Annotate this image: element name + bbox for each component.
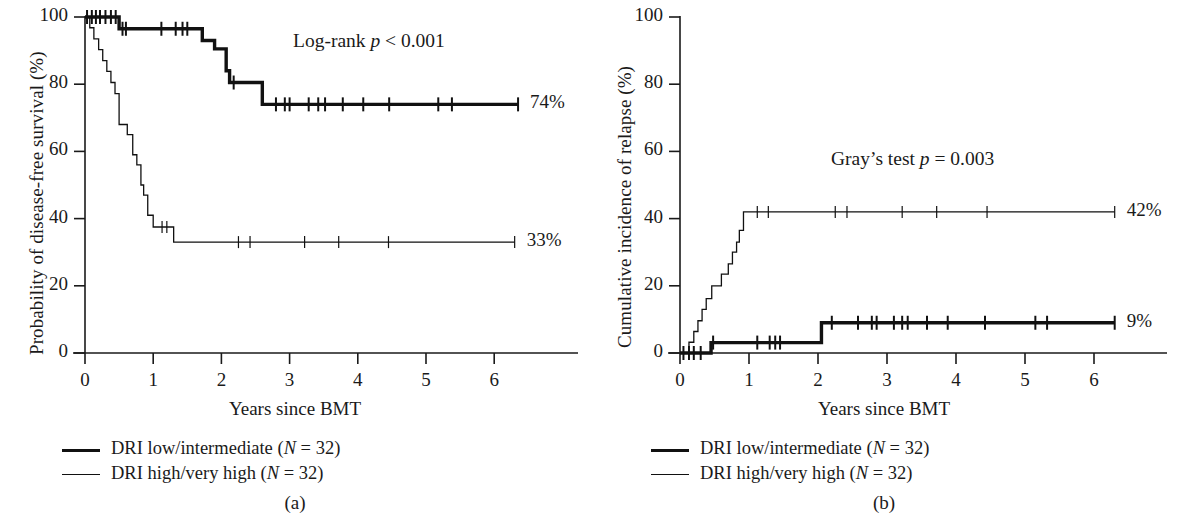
panel-a-x-axis-label: Years since BMT bbox=[0, 398, 590, 420]
b-y-tick-label-60: 60 bbox=[585, 138, 663, 160]
panel-a-plot bbox=[0, 0, 590, 400]
a-y-tick-label-80: 80 bbox=[0, 71, 68, 93]
a-x-ticks bbox=[85, 353, 494, 364]
annot-a-suffix: < 0.001 bbox=[380, 30, 445, 51]
b-legend-line-icon-thin bbox=[651, 467, 689, 481]
b-legend-item-high-very-high: DRI high/very high (N = 32) bbox=[651, 461, 929, 486]
a-y-tick-label-60: 60 bbox=[0, 138, 68, 160]
a-y-tick-label-100: 100 bbox=[0, 4, 68, 26]
b-legend-label-1: DRI high/very high (N = 32) bbox=[700, 463, 912, 484]
panel-b-subcaption: (b) bbox=[589, 492, 1179, 514]
b-x-tick-label-3: 3 bbox=[872, 369, 902, 391]
a-y-tick-label-0: 0 bbox=[0, 340, 68, 362]
b-x-tick-label-4: 4 bbox=[941, 369, 971, 391]
a-censor-marks-thin bbox=[162, 221, 515, 248]
a-legend-item-low-intermediate: DRI low/intermediate (N = 32) bbox=[62, 436, 340, 461]
b-axes bbox=[668, 16, 1167, 353]
a-x-tick-label-0: 0 bbox=[70, 369, 100, 391]
figure-container: Probability of disease-free survival (%)… bbox=[0, 0, 1179, 527]
a-y-ticks bbox=[74, 17, 85, 353]
a-end-label-low-intermediate: 74% bbox=[530, 91, 565, 113]
panel-b: Cumulative incidence of relapse (%) Gray… bbox=[589, 0, 1179, 527]
legend-label-italic-n: N bbox=[873, 438, 885, 458]
legend-label-post: = 32) bbox=[885, 438, 929, 458]
annot-b-italic: p bbox=[920, 148, 930, 169]
annot-b-prefix: Gray’s test bbox=[831, 148, 920, 169]
annot-b-suffix: = 0.003 bbox=[930, 148, 995, 169]
panel-b-x-axis-label: Years since BMT bbox=[589, 398, 1179, 420]
annot-a-italic: p bbox=[370, 30, 380, 51]
a-x-tick-label-1: 1 bbox=[138, 369, 168, 391]
panel-b-legend: DRI low/intermediate (N = 32)DRI high/ve… bbox=[651, 436, 929, 486]
legend-label-italic-n: N bbox=[267, 463, 279, 483]
legend-label-post: = 32) bbox=[296, 438, 340, 458]
annot-a-prefix: Log-rank bbox=[293, 30, 370, 51]
b-y-tick-label-0: 0 bbox=[585, 340, 663, 362]
a-x-tick-label-6: 6 bbox=[479, 369, 509, 391]
legend-label-post: = 32) bbox=[868, 463, 912, 483]
b-x-tick-label-0: 0 bbox=[665, 369, 695, 391]
panel-a: Probability of disease-free survival (%)… bbox=[0, 0, 590, 527]
b-legend-line-icon-thick bbox=[651, 442, 689, 456]
b-legend-item-low-intermediate: DRI low/intermediate (N = 32) bbox=[651, 436, 929, 461]
b-legend-label-0: DRI low/intermediate (N = 32) bbox=[700, 438, 929, 459]
a-x-tick-label-4: 4 bbox=[343, 369, 373, 391]
b-x-tick-label-1: 1 bbox=[734, 369, 764, 391]
b-x-ticks bbox=[680, 353, 1094, 364]
panel-b-plot bbox=[589, 0, 1179, 400]
a-y-tick-label-40: 40 bbox=[0, 206, 68, 228]
a-legend-line-icon-thick bbox=[62, 442, 100, 456]
a-censor-marks-thick bbox=[87, 10, 518, 111]
a-x-tick-label-2: 2 bbox=[206, 369, 236, 391]
legend-label-post: = 32) bbox=[279, 463, 323, 483]
panel-a-subcaption: (a) bbox=[0, 492, 590, 514]
b-y-tick-label-20: 20 bbox=[585, 273, 663, 295]
b-series-dri-high-very-high bbox=[680, 212, 1115, 353]
a-end-label-high-very-high: 33% bbox=[527, 229, 562, 251]
a-legend-item-high-very-high: DRI high/very high (N = 32) bbox=[62, 461, 340, 486]
a-legend-line-icon-thin bbox=[62, 467, 100, 481]
panel-b-statistic-annotation: Gray’s test p = 0.003 bbox=[831, 148, 994, 170]
b-y-ticks bbox=[669, 17, 680, 353]
b-y-tick-label-100: 100 bbox=[585, 4, 663, 26]
panel-a-statistic-annotation: Log-rank p < 0.001 bbox=[293, 30, 445, 52]
legend-label-pre: DRI low/intermediate ( bbox=[111, 438, 284, 458]
b-y-tick-label-80: 80 bbox=[585, 71, 663, 93]
legend-label-pre: DRI low/intermediate ( bbox=[700, 438, 873, 458]
legend-label-italic-n: N bbox=[284, 438, 296, 458]
legend-label-italic-n: N bbox=[856, 463, 868, 483]
b-x-tick-label-6: 6 bbox=[1079, 369, 1109, 391]
b-y-tick-label-40: 40 bbox=[585, 206, 663, 228]
b-end-label-high-very-high: 42% bbox=[1127, 199, 1162, 221]
a-legend-label-1: DRI high/very high (N = 32) bbox=[111, 463, 323, 484]
a-legend-label-0: DRI low/intermediate (N = 32) bbox=[111, 438, 340, 459]
legend-label-pre: DRI high/very high ( bbox=[111, 463, 267, 483]
a-axes bbox=[73, 16, 578, 353]
panel-a-legend: DRI low/intermediate (N = 32)DRI high/ve… bbox=[62, 436, 340, 486]
a-x-tick-label-5: 5 bbox=[411, 369, 441, 391]
b-end-label-low-intermediate: 9% bbox=[1127, 310, 1152, 332]
b-x-tick-label-2: 2 bbox=[803, 369, 833, 391]
legend-label-pre: DRI high/very high ( bbox=[700, 463, 856, 483]
a-x-tick-label-3: 3 bbox=[275, 369, 305, 391]
b-series-dri-low-intermediate bbox=[680, 323, 1115, 353]
b-x-tick-label-5: 5 bbox=[1010, 369, 1040, 391]
a-y-tick-label-20: 20 bbox=[0, 273, 68, 295]
